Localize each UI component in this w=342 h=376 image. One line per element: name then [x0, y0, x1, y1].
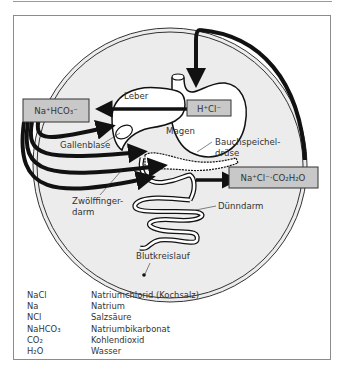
- duodenum-label-2: darm: [72, 207, 94, 217]
- small-intestine-label: Dünndarm: [218, 201, 263, 211]
- legend-row: NCl Salzsäure: [27, 312, 199, 323]
- bicarbonate-box: Na⁺HCO₃⁻: [23, 99, 89, 122]
- legend-row: CO₂ Kohlendioxid: [27, 335, 199, 346]
- legend-row: Na Natrium: [27, 301, 199, 312]
- liver-label: Leber: [124, 91, 149, 101]
- pancreas-label-1: Bauchspeichel-: [215, 137, 280, 147]
- legend: NaCl Natriumchlorid (Kochsalz) Na Natriu…: [27, 290, 199, 357]
- hydrochloric-acid-box: H⁺Cl⁻: [187, 100, 231, 116]
- svg-text:Na⁺HCO₃⁻: Na⁺HCO₃⁻: [34, 106, 77, 116]
- pancreas-label-2: drüse: [215, 148, 239, 158]
- products-box: Na⁺Cl⁻·CO₂H₂O: [229, 167, 318, 188]
- gallbladder-label: Gallenblase: [60, 140, 110, 150]
- duodenum-label-1: Zwölffinger-: [72, 196, 123, 206]
- legend-row: NaHCO₃ Natriumbikarbonat: [27, 324, 199, 335]
- legend-row: NaCl Natriumchlorid (Kochsalz): [27, 290, 199, 301]
- stomach-label: Magen: [166, 126, 195, 136]
- svg-text:H⁺Cl⁻: H⁺Cl⁻: [197, 104, 221, 114]
- svg-text:Na⁺Cl⁻·CO₂H₂O: Na⁺Cl⁻·CO₂H₂O: [241, 173, 306, 183]
- legend-row: H₂O Wasser: [27, 346, 199, 357]
- circulation-label: Blutkreislauf: [136, 251, 191, 261]
